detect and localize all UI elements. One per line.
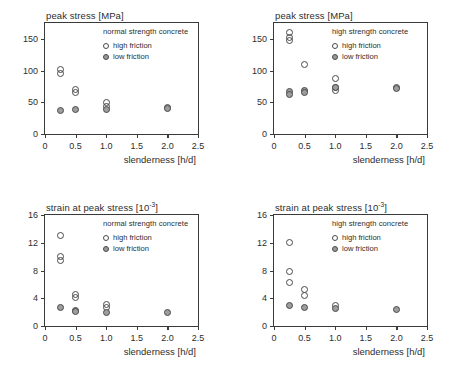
x-tick (305, 134, 306, 138)
x-tick-label: 1.5 (351, 141, 381, 151)
x-tick (106, 326, 107, 330)
filled-circle-icon (332, 54, 338, 60)
data-point (103, 106, 110, 113)
x-tick (137, 134, 138, 138)
data-point (393, 85, 400, 92)
filled-circle-icon (103, 54, 109, 60)
x-tick (305, 326, 306, 330)
x-tick-label: 2.0 (381, 333, 411, 343)
x-tick (76, 326, 77, 330)
legend-label: low friction (113, 243, 149, 254)
x-tick-label: 1.0 (91, 141, 121, 151)
legend-title: high strength concrete (332, 26, 426, 37)
data-point (103, 309, 110, 316)
figure-four-scatter-panels: peak stress [MPa] normal strength concre… (0, 0, 459, 384)
data-point (72, 294, 79, 301)
x-tick (335, 134, 336, 138)
panel-top-left: peak stress [MPa] normal strength concre… (0, 0, 229, 192)
legend: high strength concrete high friction low… (332, 26, 426, 62)
legend: normal strength concrete high friction l… (103, 26, 197, 62)
data-point (57, 304, 64, 311)
x-tick-label: 0.5 (61, 141, 91, 151)
y-tick (41, 243, 45, 244)
x-tick (366, 134, 367, 138)
x-tick-label: 0.5 (61, 333, 91, 343)
legend-title: normal strength concrete (103, 26, 197, 37)
x-tick (76, 134, 77, 138)
x-tick-label: 2.5 (183, 333, 213, 343)
legend-entry-low-friction: low friction (332, 243, 426, 254)
x-tick (45, 326, 46, 330)
y-tick-label: 16 (4, 210, 38, 220)
legend-label: low friction (113, 51, 149, 62)
y-tick-label: 16 (233, 210, 267, 220)
x-tick (366, 326, 367, 330)
data-point (57, 257, 64, 264)
data-point (286, 239, 293, 246)
open-circle-icon (103, 235, 109, 241)
data-point (57, 70, 64, 77)
legend-title: normal strength concrete (103, 218, 197, 229)
legend-entry-high-friction: high friction (103, 232, 197, 243)
x-tick (167, 134, 168, 138)
filled-circle-icon (103, 246, 109, 252)
x-tick-label: 1.0 (91, 333, 121, 343)
data-point (301, 304, 308, 311)
x-tick-label: 1.5 (122, 141, 152, 151)
panel-bottom-right: strain at peak stress [10-3] high streng… (229, 192, 458, 384)
y-tick (270, 71, 274, 72)
y-tick-label: 12 (233, 238, 267, 248)
x-tick (274, 326, 275, 330)
y-axis-label: peak stress [MPa] (275, 10, 353, 21)
y-tick (41, 39, 45, 40)
legend: high strength concrete high friction low… (332, 218, 426, 254)
y-axis-label: peak stress [MPa] (46, 10, 124, 21)
y-tick (41, 215, 45, 216)
y-tick-label: 100 (4, 66, 38, 76)
data-point (72, 89, 79, 96)
data-point (393, 306, 400, 313)
x-tick-label: 1.0 (320, 141, 350, 151)
legend-label: low friction (342, 51, 378, 62)
x-tick-label: 1.0 (320, 333, 350, 343)
y-tick-label: 12 (4, 238, 38, 248)
open-circle-icon (332, 43, 338, 49)
x-tick (427, 326, 428, 330)
y-tick (41, 71, 45, 72)
panel-bottom-left: strain at peak stress [10-3] normal stre… (0, 192, 229, 384)
x-tick (167, 326, 168, 330)
legend-label: high friction (342, 232, 381, 243)
open-circle-icon (103, 43, 109, 49)
y-tick (270, 271, 274, 272)
y-tick (41, 102, 45, 103)
legend-entry-high-friction: high friction (332, 40, 426, 51)
y-tick-label: 8 (4, 266, 38, 276)
x-axis-label: slenderness [h/d] (353, 346, 425, 357)
legend-label: high friction (342, 40, 381, 51)
x-axis-label: slenderness [h/d] (124, 154, 196, 165)
x-tick-label: 0.5 (290, 141, 320, 151)
x-axis-label: slenderness [h/d] (124, 346, 196, 357)
legend: normal strength concrete high friction l… (103, 218, 197, 254)
y-tick (41, 271, 45, 272)
x-tick (137, 326, 138, 330)
x-tick (274, 134, 275, 138)
y-axis-label: strain at peak stress [10-3] (275, 202, 387, 213)
y-tick-label: 150 (233, 34, 267, 44)
data-point (286, 91, 293, 98)
plot-area: normal strength concrete high friction l… (44, 22, 199, 135)
y-tick (270, 298, 274, 299)
legend-label: low friction (342, 243, 378, 254)
y-tick (270, 102, 274, 103)
y-tick (270, 243, 274, 244)
y-tick-label: 100 (233, 66, 267, 76)
panel-top-right: peak stress [MPa] high strength concrete… (229, 0, 458, 192)
legend-title: high strength concrete (332, 218, 426, 229)
x-axis-label: slenderness [h/d] (353, 154, 425, 165)
x-tick-label: 0 (259, 141, 289, 151)
x-tick-label: 2.5 (183, 141, 213, 151)
x-tick-label: 2.5 (412, 333, 442, 343)
plot-area: high strength concrete high friction low… (273, 214, 428, 327)
data-point (286, 268, 293, 275)
x-tick-label: 0 (30, 141, 60, 151)
